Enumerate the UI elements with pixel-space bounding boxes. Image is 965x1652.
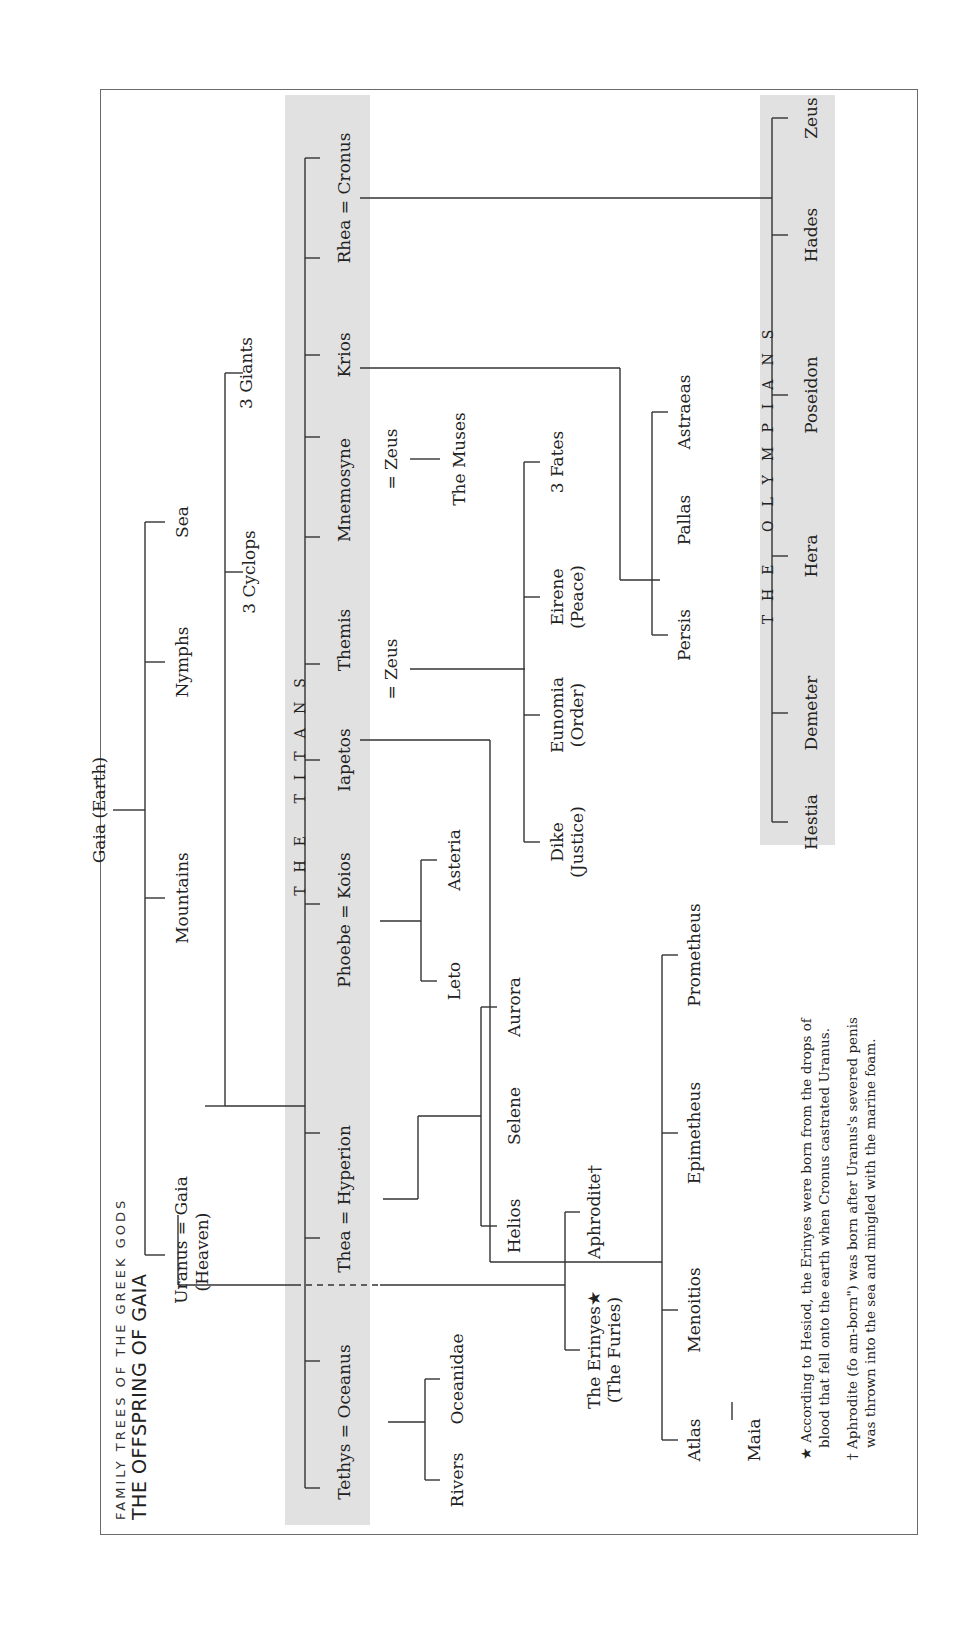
- node-atlas: Atlas: [685, 1418, 705, 1461]
- node-fates: 3 Fates: [548, 431, 568, 494]
- titan-iapetos: Iapetos: [335, 728, 355, 792]
- node-zeus-mnemosyne: = Zeus: [382, 428, 402, 489]
- node-eunomia-sub: (Order): [568, 683, 588, 747]
- titan-tethys-oceanus: Tethys = Oceanus: [335, 1344, 355, 1500]
- node-furies: (The Furies): [605, 1297, 625, 1403]
- node-sea: Sea: [173, 506, 193, 538]
- node-pallas: Pallas: [675, 495, 695, 546]
- node-asteria: Asteria: [445, 829, 465, 891]
- node-giants: 3 Giants: [237, 337, 257, 409]
- node-astraeas: Astraeas: [675, 374, 695, 449]
- titan-phoebe-koios: Phoebe = Koios: [335, 852, 355, 988]
- page-title: THE OFFSPRING OF GAIA: [128, 1274, 150, 1520]
- node-aphrodite: Aphrodite†: [585, 1165, 605, 1259]
- titan-thea-hyperion: Thea = Hyperion: [335, 1125, 355, 1273]
- footnote-aphrodite-line2: was thrown into the sea and mingled with…: [861, 1039, 880, 1449]
- node-mountains: Mountains: [173, 852, 193, 944]
- olympian-hera: Hera: [802, 534, 822, 577]
- olympian-hestia: Hestia: [802, 794, 822, 850]
- node-prometheus: Prometheus: [685, 903, 705, 1007]
- olympian-demeter: Demeter: [802, 676, 822, 751]
- node-selene: Selene: [505, 1087, 525, 1145]
- node-uranus-gaia: Uranus = Gaia: [172, 1176, 192, 1304]
- titan-themis: Themis: [335, 609, 355, 672]
- node-dike: Dike: [548, 822, 568, 861]
- node-cyclops: 3 Cyclops: [240, 530, 260, 614]
- node-eunomia: Eunomia: [548, 677, 568, 753]
- series-title: FAMILY TREES OF THE GREEK GODS: [113, 1198, 128, 1520]
- node-gaia: Gaia (Earth): [90, 757, 110, 863]
- node-dike-sub: (Justice): [568, 806, 588, 878]
- titan-rhea-cronus: Rhea = Cronus: [335, 133, 355, 264]
- titan-krios: Krios: [335, 332, 355, 377]
- node-menoitios: Menoitios: [685, 1267, 705, 1352]
- node-zeus-themis: = Zeus: [382, 638, 402, 699]
- node-epimetheus: Epimetheus: [685, 1082, 705, 1184]
- footnote-erinyes-line1: ★ According to Hesiod, the Erinyes were …: [797, 1018, 816, 1460]
- node-nymphs: Nymphs: [173, 626, 193, 697]
- node-rivers: Rivers: [448, 1453, 468, 1508]
- node-eirene: Eirene: [548, 568, 568, 625]
- footnote-erinyes-line2: blood that fell onto the earth when Cron…: [815, 1028, 834, 1448]
- olympian-hades: Hades: [802, 208, 822, 263]
- node-erinyes: The Erinyes★: [585, 1291, 605, 1409]
- titans-band-label: THE TITANS: [292, 664, 308, 896]
- node-oceanidae: Oceanidae: [448, 1333, 468, 1424]
- olympian-zeus: Zeus: [802, 97, 822, 139]
- node-heaven: (Heaven): [193, 1213, 213, 1292]
- node-helios: Helios: [505, 1199, 525, 1254]
- node-leto: Leto: [445, 962, 465, 1000]
- titan-mnemosyne: Mnemosyne: [335, 438, 355, 542]
- node-muses: The Muses: [450, 412, 470, 506]
- footnote-aphrodite-line1: † Aphrodite (fo am-born") was born after…: [843, 1017, 862, 1460]
- node-persis: Persis: [675, 609, 695, 661]
- olympians-band-label: THE OLYMPIANS: [760, 316, 776, 625]
- node-eirene-sub: (Peace): [568, 565, 588, 629]
- node-maia: Maia: [745, 1418, 765, 1461]
- olympian-poseidon: Poseidon: [802, 356, 822, 433]
- node-aurora: Aurora: [505, 977, 525, 1037]
